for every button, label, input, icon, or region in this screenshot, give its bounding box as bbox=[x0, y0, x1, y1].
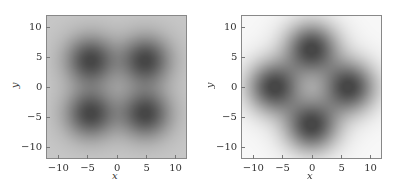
x-tick-mark bbox=[58, 155, 59, 159]
x-tick-label: −10 bbox=[243, 163, 264, 173]
y-tick-mark bbox=[46, 27, 50, 28]
y-tick-mark bbox=[241, 87, 245, 88]
x-tick-label: −5 bbox=[80, 163, 95, 173]
y-tick-label: −5 bbox=[222, 112, 237, 122]
y-tick-mark bbox=[241, 117, 245, 118]
y-tick-mark bbox=[46, 117, 50, 118]
right-plot: x y −10−50510−10−50510 bbox=[195, 0, 392, 194]
x-tick-mark bbox=[146, 155, 147, 159]
left-heatmap bbox=[47, 16, 186, 158]
y-tick-mark bbox=[241, 57, 245, 58]
y-tick-label: −5 bbox=[27, 112, 42, 122]
x-tick-label: 10 bbox=[364, 163, 377, 173]
x-tick-mark bbox=[117, 155, 118, 159]
left-y-axis-label: y bbox=[9, 83, 20, 89]
x-tick-mark bbox=[370, 155, 371, 159]
y-tick-label: −10 bbox=[21, 142, 42, 152]
y-tick-mark bbox=[46, 87, 50, 88]
x-tick-label: −10 bbox=[48, 163, 69, 173]
y-tick-label: 0 bbox=[231, 82, 237, 92]
x-tick-mark bbox=[253, 155, 254, 159]
x-tick-mark bbox=[282, 155, 283, 159]
y-tick-mark bbox=[241, 27, 245, 28]
left-plot: x y −10−50510−10−50510 bbox=[0, 0, 197, 194]
y-tick-label: −10 bbox=[216, 142, 237, 152]
x-tick-mark bbox=[312, 155, 313, 159]
y-tick-label: 10 bbox=[224, 22, 237, 32]
x-tick-mark bbox=[341, 155, 342, 159]
x-tick-mark bbox=[175, 155, 176, 159]
x-tick-label: −5 bbox=[275, 163, 290, 173]
x-tick-label: 10 bbox=[169, 163, 182, 173]
y-tick-mark bbox=[46, 147, 50, 148]
y-tick-mark bbox=[46, 57, 50, 58]
right-y-axis-label: y bbox=[204, 83, 215, 89]
x-tick-label: 0 bbox=[309, 163, 315, 173]
y-tick-label: 5 bbox=[36, 52, 42, 62]
left-plot-axes bbox=[46, 15, 187, 159]
right-plot-axes bbox=[241, 15, 382, 159]
y-tick-label: 0 bbox=[36, 82, 42, 92]
x-tick-mark bbox=[87, 155, 88, 159]
x-tick-label: 5 bbox=[143, 163, 149, 173]
y-tick-label: 10 bbox=[29, 22, 42, 32]
right-heatmap bbox=[242, 16, 381, 158]
x-tick-label: 5 bbox=[338, 163, 344, 173]
x-tick-label: 0 bbox=[114, 163, 120, 173]
y-tick-label: 5 bbox=[231, 52, 237, 62]
y-tick-mark bbox=[241, 147, 245, 148]
